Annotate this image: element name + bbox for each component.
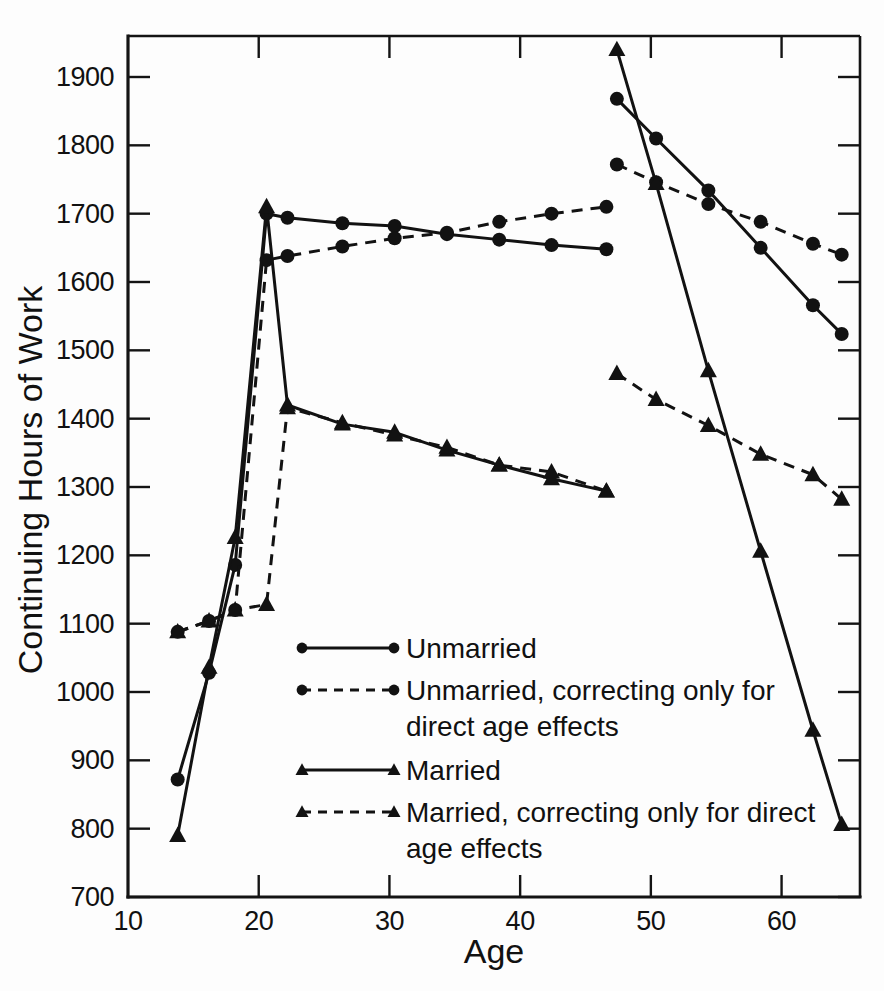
data-point-circle <box>835 327 849 341</box>
y-tick-label: 900 <box>70 745 114 775</box>
data-point-triangle <box>833 816 850 831</box>
data-point-circle <box>701 197 715 211</box>
x-tick-label: 50 <box>636 906 665 936</box>
data-point-triangle <box>258 198 275 213</box>
data-point-circle <box>440 226 454 240</box>
data-point-circle <box>545 238 559 252</box>
data-point-circle <box>492 233 506 247</box>
chart-page: 7008009001000110012001300140015001600170… <box>0 0 884 991</box>
data-point-triangle <box>258 596 275 611</box>
y-tick-label: 1300 <box>56 472 114 502</box>
series-path <box>617 50 842 825</box>
y-tick-label: 1700 <box>56 199 114 229</box>
data-point-circle <box>335 239 349 253</box>
y-tick-label: 1400 <box>56 404 114 434</box>
data-point-circle <box>610 92 624 106</box>
data-point-circle <box>649 132 663 146</box>
series-path <box>178 207 607 632</box>
line-chart: 7008009001000110012001300140015001600170… <box>0 0 884 991</box>
y-tick-label: 1200 <box>56 540 114 570</box>
data-point-circle <box>280 211 294 225</box>
data-point-circle <box>754 241 768 255</box>
data-point-triangle <box>201 658 218 673</box>
data-point-triangle <box>608 41 625 56</box>
data-point-triangle <box>700 362 717 377</box>
data-point-triangle <box>804 721 821 736</box>
data-point-circle <box>806 237 820 251</box>
series-2 <box>171 157 849 638</box>
y-tick-label: 1900 <box>56 62 114 92</box>
data-point-circle <box>388 231 402 245</box>
legend-entry-1[interactable]: Unmarried <box>297 633 537 664</box>
data-point-circle <box>610 157 624 171</box>
x-tick-label: 30 <box>375 906 404 936</box>
x-tick-labels: 102030405060 <box>113 906 796 936</box>
data-point-circle <box>388 219 402 233</box>
x-axis-title: Age <box>464 932 525 970</box>
y-tick-label: 800 <box>70 814 114 844</box>
data-point-circle <box>545 207 559 221</box>
data-point-circle <box>599 200 613 214</box>
y-tick-labels: 7008009001000110012001300140015001600170… <box>56 62 114 912</box>
x-tick-label: 60 <box>767 906 796 936</box>
series-4 <box>169 365 850 639</box>
data-point-circle <box>754 215 768 229</box>
y-tick-label: 1100 <box>58 609 114 639</box>
legend-label: Unmarried <box>406 633 537 664</box>
data-point-circle <box>280 249 294 263</box>
legend-label: Unmarried, correcting only for <box>406 675 775 706</box>
data-point-circle <box>701 183 715 197</box>
data-point-triangle <box>752 445 769 460</box>
legend-entry-4[interactable]: Married, correcting only for directage e… <box>296 797 816 864</box>
legend-label: age effects <box>406 833 542 864</box>
data-point-triangle <box>608 365 625 380</box>
data-point-circle <box>492 215 506 229</box>
legend-marker-circle <box>389 643 400 654</box>
y-tick-label: 1000 <box>56 677 114 707</box>
legend-marker-circle <box>297 643 308 654</box>
y-tick-label: 1600 <box>56 267 114 297</box>
data-point-circle <box>835 248 849 262</box>
series-path <box>617 99 842 334</box>
chart-legend: UnmarriedUnmarried, correcting only ford… <box>296 633 816 864</box>
data-point-circle <box>599 242 613 256</box>
legend-entry-3[interactable]: Married <box>296 755 501 786</box>
legend-entry-2[interactable]: Unmarried, correcting only fordirect age… <box>297 675 775 742</box>
y-axis-title: Continuing Hours of Work <box>11 285 49 675</box>
y-tick-label: 1800 <box>56 130 114 160</box>
legend-marker-circle <box>389 685 400 696</box>
y-tick-label: 700 <box>70 882 114 912</box>
data-point-triangle <box>169 827 186 842</box>
x-tick-label: 10 <box>113 906 142 936</box>
legend-label: direct age effects <box>406 711 619 742</box>
data-point-triangle <box>438 438 455 453</box>
data-point-triangle <box>700 417 717 432</box>
data-point-triangle <box>752 542 769 557</box>
legend-label: Married <box>406 755 501 786</box>
legend-marker-circle <box>297 685 308 696</box>
data-point-triangle <box>648 391 665 406</box>
data-point-circle <box>806 298 820 312</box>
x-tick-label: 20 <box>244 906 273 936</box>
y-tick-label: 1500 <box>56 335 114 365</box>
legend-label: Married, correcting only for direct <box>406 797 815 828</box>
data-point-circle <box>171 772 185 786</box>
data-point-circle <box>335 216 349 230</box>
